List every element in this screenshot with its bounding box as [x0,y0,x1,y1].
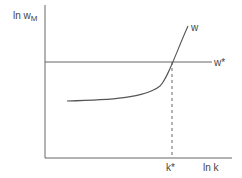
y-axis-label: ln wM [13,10,38,23]
w-star-label: w* [213,57,225,68]
w-curve [67,26,188,101]
curve-label-w: w [190,22,199,33]
k-star-label: k* [166,162,175,173]
x-axis-label: ln k [203,162,220,173]
diagram-canvas: ln wM w w* k* ln k [0,0,242,178]
